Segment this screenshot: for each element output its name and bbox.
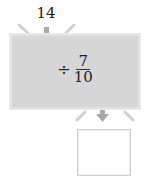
down-arrow-icon bbox=[96, 108, 109, 122]
operation: ÷ 7 10 bbox=[10, 54, 140, 85]
input-number: 14 bbox=[34, 5, 58, 21]
output-answer-box[interactable] bbox=[77, 129, 131, 176]
function-machine: ÷ 7 10 bbox=[9, 33, 141, 110]
divide-sign: ÷ bbox=[57, 60, 70, 79]
fraction: 7 10 bbox=[74, 54, 93, 85]
fraction-denominator: 10 bbox=[74, 70, 93, 85]
